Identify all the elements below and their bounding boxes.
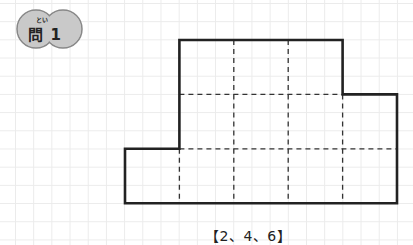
answer-choices-caption: 【2、4、6】 <box>205 225 291 245</box>
shape-outline <box>125 40 397 203</box>
